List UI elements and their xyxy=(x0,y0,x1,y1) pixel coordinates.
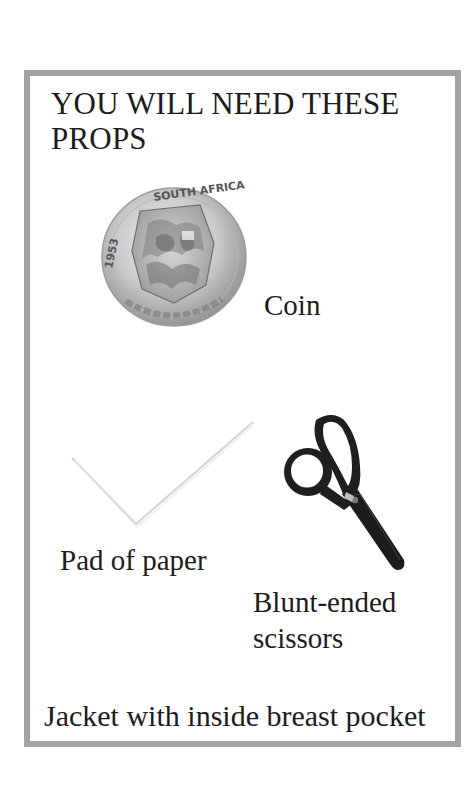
title-line-1: YOU WILL NEED THESE xyxy=(51,86,399,121)
scissors-icon xyxy=(280,410,415,580)
title-line-2: PROPS xyxy=(51,121,147,156)
scissors-label: Blunt-ended scissors xyxy=(253,584,396,656)
scissors-label-line-2: scissors xyxy=(253,620,396,656)
scissors-label-line-1: Blunt-ended xyxy=(253,584,396,620)
paper-pad-icon xyxy=(62,412,262,537)
coin-label: Coin xyxy=(264,287,320,323)
jacket-label: Jacket with inside breast pocket xyxy=(44,698,426,734)
coin-icon: SOUTH AFRICA 1953 xyxy=(96,181,252,333)
pad-of-paper-label: Pad of paper xyxy=(60,542,207,578)
page-title: YOU WILL NEED THESE PROPS xyxy=(51,86,451,156)
